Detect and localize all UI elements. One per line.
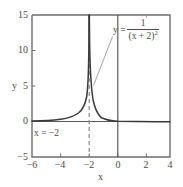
x-tick-label-minus2: −2 <box>79 160 99 170</box>
x-axis-label: x <box>98 172 103 182</box>
y-tick-label-5: 5 <box>8 81 28 91</box>
figure-container: 15 10 5 0 −5 −6 −4 −2 0 2 4 y x x = −2 y… <box>0 0 183 187</box>
y-tick-label-0: 0 <box>8 116 28 126</box>
y-tick-label-10: 10 <box>8 45 28 55</box>
y-axis-label: y <box>12 81 17 91</box>
y-tick-label-15: 15 <box>8 10 28 20</box>
x-tick-label-4: 4 <box>160 160 180 170</box>
curve-left-branch <box>32 15 89 121</box>
equation-denominator-base: (x + 2) <box>128 31 154 41</box>
equation-exponent: 2 <box>154 29 157 36</box>
x-tick-label-minus4: −4 <box>50 160 70 170</box>
x-tick-label-minus6: −6 <box>22 160 42 170</box>
equation-annotation: y = 1 (x + 2)2 <box>113 19 159 42</box>
equation-leader-line <box>94 37 113 86</box>
equation-lhs: y = <box>113 26 125 36</box>
x-tick-label-2: 2 <box>136 160 156 170</box>
asymptote-label: x = −2 <box>34 129 59 139</box>
x-tick-label-0: 0 <box>108 160 128 170</box>
equation-numerator: 1 <box>138 19 149 29</box>
equation-fraction: 1 (x + 2)2 <box>127 19 158 42</box>
equation-denominator: (x + 2)2 <box>127 30 158 42</box>
